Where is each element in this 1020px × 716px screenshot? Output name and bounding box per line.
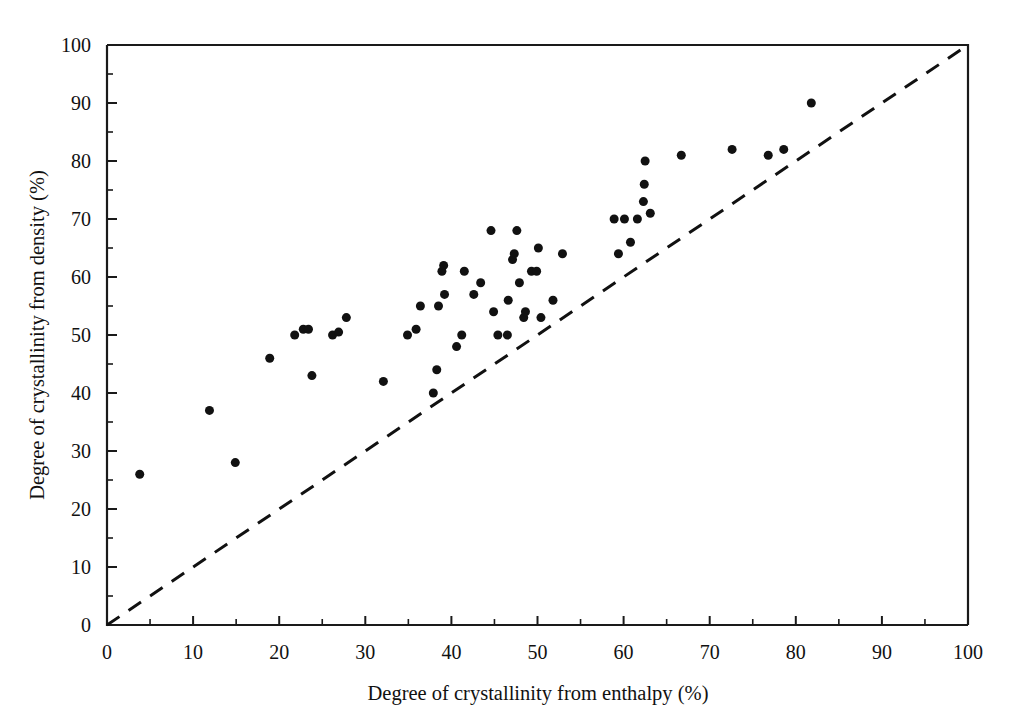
data-point <box>452 342 461 351</box>
x-tick-label: 80 <box>786 641 806 663</box>
data-point <box>440 290 449 299</box>
data-point <box>307 371 316 380</box>
y-tick-label: 40 <box>71 382 91 404</box>
data-point <box>536 313 545 322</box>
data-point <box>521 307 530 316</box>
x-tick-label: 0 <box>102 641 112 663</box>
data-point <box>205 406 214 415</box>
x-tick-label: 20 <box>269 641 289 663</box>
x-tick-label: 50 <box>528 641 548 663</box>
data-point <box>416 302 425 311</box>
data-point <box>476 278 485 287</box>
x-tick-label: 30 <box>355 641 375 663</box>
major-tick-group <box>107 45 968 625</box>
x-tick-label: 100 <box>953 641 983 663</box>
y-tick-label: 70 <box>71 208 91 230</box>
data-point <box>460 267 469 276</box>
data-point <box>290 331 299 340</box>
x-tick-label: 60 <box>614 641 634 663</box>
data-point <box>342 313 351 322</box>
data-point <box>548 296 557 305</box>
data-point <box>489 307 498 316</box>
data-point <box>677 151 686 160</box>
data-point <box>510 249 519 258</box>
scatter-plot-svg: 0102030405060708090100 01020304050607080… <box>0 0 1020 716</box>
x-tick-label: 70 <box>700 641 720 663</box>
data-point <box>764 151 773 160</box>
x-axis-title: Degree of crystallinity from enthalpy (%… <box>368 682 709 705</box>
data-point <box>379 377 388 386</box>
data-point <box>457 331 466 340</box>
data-point <box>439 261 448 270</box>
x-tick-label: 10 <box>183 641 203 663</box>
data-point <box>265 354 274 363</box>
data-point <box>504 296 513 305</box>
data-point <box>639 197 648 206</box>
parity-reference-line <box>107 45 968 625</box>
data-point <box>412 325 421 334</box>
y-tick-label: 60 <box>71 266 91 288</box>
data-point <box>558 249 567 258</box>
data-point <box>646 209 655 218</box>
data-point <box>807 99 816 108</box>
x-tick-labels: 0102030405060708090100 <box>102 641 983 663</box>
data-point <box>135 470 144 479</box>
data-point <box>403 331 412 340</box>
data-point <box>231 458 240 467</box>
x-tick-label: 40 <box>441 641 461 663</box>
data-point <box>614 249 623 258</box>
data-point <box>534 244 543 253</box>
axis-frame <box>107 45 968 625</box>
data-point <box>334 328 343 337</box>
y-tick-label: 0 <box>81 614 91 636</box>
data-point <box>641 157 650 166</box>
y-tick-label: 50 <box>71 324 91 346</box>
data-point <box>503 331 512 340</box>
data-point <box>620 215 629 224</box>
data-point <box>432 365 441 374</box>
y-tick-label: 90 <box>71 92 91 114</box>
data-point <box>434 302 443 311</box>
y-tick-label: 100 <box>61 34 91 56</box>
data-point <box>304 325 313 334</box>
y-tick-label: 80 <box>71 150 91 172</box>
data-point <box>512 226 521 235</box>
y-tick-label: 20 <box>71 498 91 520</box>
data-point <box>728 145 737 154</box>
data-points-group <box>135 99 816 479</box>
x-tick-label: 90 <box>872 641 892 663</box>
y-tick-label: 10 <box>71 556 91 578</box>
y-tick-label: 30 <box>71 440 91 462</box>
data-point <box>515 278 524 287</box>
data-point <box>487 226 496 235</box>
y-tick-labels: 0102030405060708090100 <box>61 34 91 636</box>
data-point <box>610 215 619 224</box>
y-axis-title: Degree of crystallinity from density (%) <box>26 170 49 500</box>
data-point <box>779 145 788 154</box>
data-point <box>532 267 541 276</box>
axis-lines <box>107 45 968 625</box>
data-point <box>469 290 478 299</box>
scatter-plot-figure: 0102030405060708090100 01020304050607080… <box>0 0 1020 716</box>
data-point <box>626 238 635 247</box>
data-point <box>640 180 649 189</box>
data-point <box>633 215 642 224</box>
data-point <box>493 331 502 340</box>
data-point <box>429 389 438 398</box>
